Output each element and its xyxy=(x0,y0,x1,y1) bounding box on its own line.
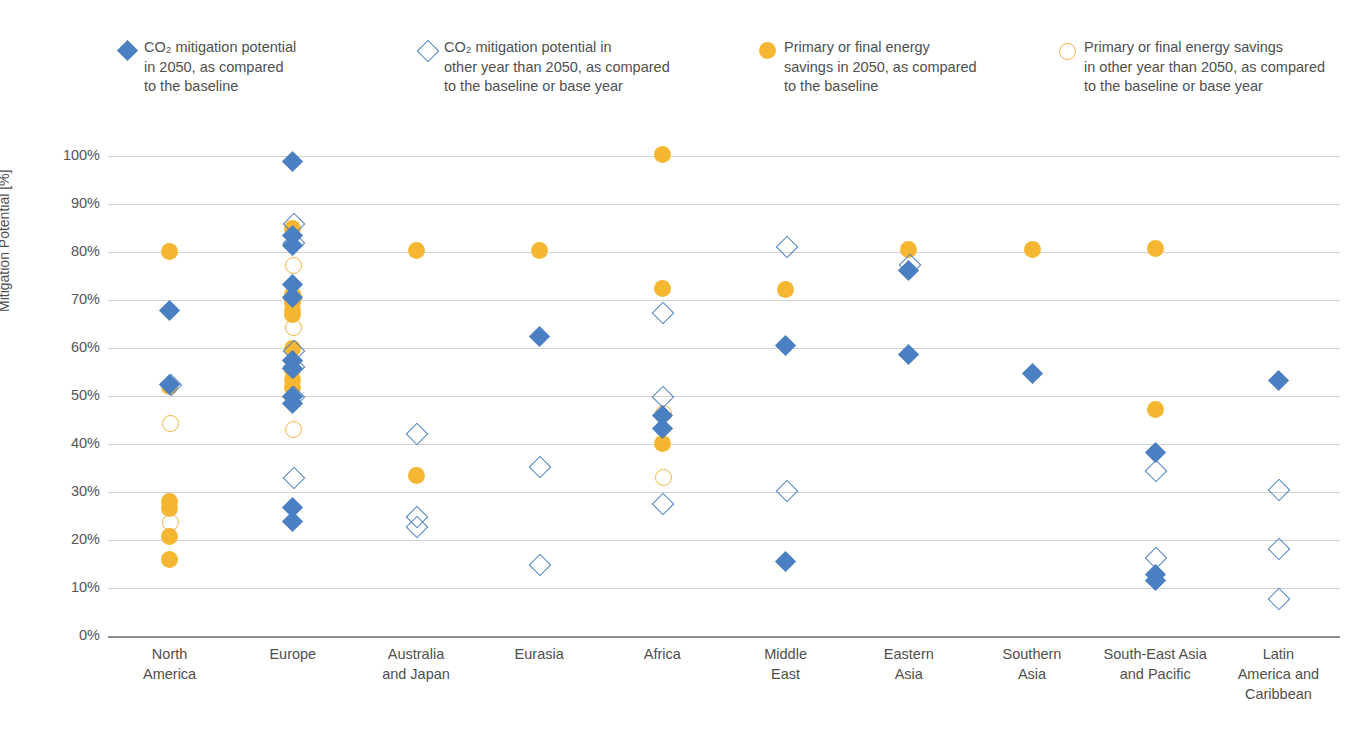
y-tick-label: 70% xyxy=(38,291,100,307)
data-point xyxy=(1147,240,1164,257)
data-point xyxy=(285,421,302,438)
data-point xyxy=(652,302,675,325)
data-point xyxy=(775,551,796,572)
data-point xyxy=(655,469,672,486)
data-point xyxy=(1021,363,1042,384)
chart-legend: CO₂ mitigation potential in 2050, as com… xyxy=(118,38,1348,130)
data-point xyxy=(282,511,303,532)
y-axis-title: Mitigation Potential [%] xyxy=(0,170,12,312)
data-point xyxy=(282,151,303,172)
scatter-chart: CO₂ mitigation potential in 2050, as com… xyxy=(0,0,1357,747)
x-axis-line xyxy=(108,636,1340,638)
data-point xyxy=(652,418,673,439)
y-tick-label: 80% xyxy=(38,243,100,259)
y-tick-label: 10% xyxy=(38,579,100,595)
data-point xyxy=(282,467,305,490)
data-point xyxy=(652,492,675,515)
data-point xyxy=(529,455,552,478)
y-tick-label: 100% xyxy=(38,147,100,163)
legend-label: Primary or final energy savings in other… xyxy=(1084,38,1325,97)
legend-item-energy-2050: Primary or final energy savings in 2050,… xyxy=(758,38,1058,97)
legend-item-co2-other-year: CO₂ mitigation potential in other year t… xyxy=(418,38,748,97)
data-point xyxy=(1268,588,1291,611)
data-point xyxy=(408,242,425,259)
y-tick-label: 40% xyxy=(38,435,100,451)
legend-label: Primary or final energy savings in 2050,… xyxy=(784,38,977,97)
diamond-open-icon xyxy=(418,40,444,60)
data-point xyxy=(775,235,798,258)
data-point xyxy=(285,319,302,336)
x-axis-labels: North AmericaEuropeAustralia and JapanEu… xyxy=(108,644,1340,744)
data-point xyxy=(161,551,178,568)
x-tick-label-latin-americaand-caribbean: Latin America and Caribbean xyxy=(1203,644,1353,704)
data-point xyxy=(1024,241,1041,258)
diamond-filled-icon xyxy=(118,40,144,60)
data-point xyxy=(161,243,178,260)
y-tick-label: 50% xyxy=(38,387,100,403)
data-points-layer xyxy=(108,156,1340,636)
data-point xyxy=(898,344,919,365)
y-tick-label: 60% xyxy=(38,339,100,355)
data-point xyxy=(159,300,180,321)
data-point xyxy=(529,554,552,577)
data-point xyxy=(531,242,548,259)
y-tick-label: 0% xyxy=(38,627,100,643)
data-point xyxy=(406,423,429,446)
circle-filled-icon xyxy=(758,40,784,60)
data-point xyxy=(1268,370,1289,391)
data-point xyxy=(1268,479,1291,502)
data-point xyxy=(529,326,550,347)
data-point xyxy=(775,335,796,356)
legend-item-co2-2050: CO₂ mitigation potential in 2050, as com… xyxy=(118,38,418,97)
data-point xyxy=(1147,401,1164,418)
y-tick-label: 90% xyxy=(38,195,100,211)
y-axis-ticks: 0%10%20%30%40%50%60%70%80%90%100% xyxy=(38,156,100,636)
legend-item-energy-other-year: Primary or final energy savings in other… xyxy=(1058,38,1357,97)
data-point xyxy=(654,146,671,163)
data-point xyxy=(285,257,302,274)
y-tick-label: 20% xyxy=(38,531,100,547)
y-tick-label: 30% xyxy=(38,483,100,499)
legend-label: CO₂ mitigation potential in 2050, as com… xyxy=(144,38,296,97)
legend-label: CO₂ mitigation potential in other year t… xyxy=(444,38,670,97)
plot-area xyxy=(108,156,1340,636)
data-point xyxy=(162,415,179,432)
data-point xyxy=(162,514,179,531)
data-point xyxy=(777,281,794,298)
data-point xyxy=(654,280,671,297)
circle-open-icon xyxy=(1058,40,1084,60)
data-point xyxy=(1145,442,1166,463)
data-point xyxy=(1145,460,1168,483)
data-point xyxy=(775,479,798,502)
data-point xyxy=(1268,537,1291,560)
data-point xyxy=(408,467,425,484)
